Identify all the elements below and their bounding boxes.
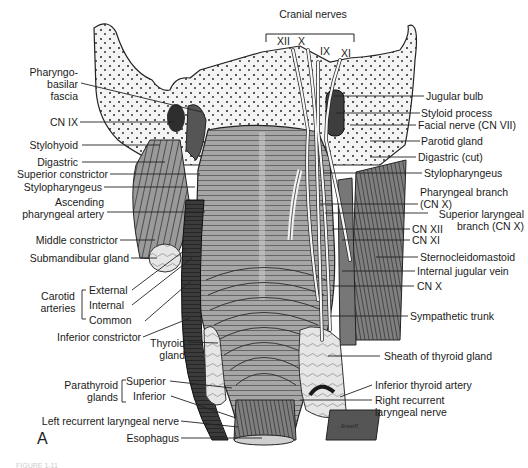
label-cn-x: CN X: [417, 280, 442, 292]
figure-caption-fragment: FIGURE 1-11: [16, 462, 58, 468]
label-carotid-internal: Internal: [89, 299, 124, 311]
label-sympathetic-trunk: Sympathetic trunk: [410, 310, 494, 322]
label-jugular-bulb: Jugular bulb: [426, 90, 483, 102]
illustrator-signature: Jewell: [340, 422, 358, 430]
label-thyroid-sheath: Sheath of thyroid gland: [384, 350, 492, 362]
label-right-recurrent-laryngeal-nerve: Right recurrent laryngeal nerve: [375, 394, 447, 418]
label-submandibular-gland: Submandibular gland: [4, 252, 129, 264]
panel-letter: A: [37, 430, 48, 448]
label-digastric-cut: Digastric (cut): [418, 151, 483, 163]
cranial-nerve-x: X: [298, 35, 305, 47]
label-stylopharyngeus-right: Stylopharyngeus: [424, 167, 502, 179]
label-digastric: Digastric: [10, 156, 78, 168]
label-ascending-pharyngeal-artery: Ascending pharyngeal artery: [4, 196, 104, 220]
label-sternocleidomastoid: Sternocleidomastoid: [420, 251, 515, 263]
label-pharyngeal-branch: Pharyngeal branch (CN X): [420, 186, 508, 210]
label-inferior-constrictor: Inferior constrictor: [4, 331, 141, 343]
cranial-nerves-title: Cranial nerves: [278, 8, 348, 20]
label-carotid-common: Common: [89, 314, 132, 326]
label-cn-ix: CN IX: [10, 116, 78, 128]
label-inferior-thyroid-artery: Inferior thyroid artery: [375, 379, 472, 391]
label-parathyroid-inferior: Inferior: [133, 390, 166, 402]
anatomy-figure: Jewell Cranial nerves XII X IX XI Pharyn…: [0, 0, 528, 468]
cranial-nerve-xi: XI: [341, 47, 351, 59]
label-middle-constrictor: Middle constrictor: [4, 234, 118, 246]
label-carotid-external: External: [89, 284, 128, 296]
label-cn-xi: CN XI: [412, 234, 440, 246]
label-parathyroid-superior: Superior: [126, 375, 166, 387]
cranial-nerve-ix: IX: [320, 45, 330, 57]
label-carotid-arteries: Carotid arteries: [36, 290, 80, 314]
label-stylohyoid: Stylohyoid: [10, 139, 78, 151]
label-parotid-gland: Parotid gland: [421, 135, 483, 147]
label-facial-nerve: Facial nerve (CN VII): [418, 119, 516, 131]
label-parathyroid-glands: Parathyroid glands: [50, 379, 118, 403]
label-pharyngobasilar-fascia: Pharyngo- basilar fascia: [10, 66, 78, 102]
cranial-nerve-xii: XII: [277, 35, 290, 47]
label-esophagus: Esophagus: [100, 432, 179, 444]
label-styloid-process: Styloid process: [421, 107, 492, 119]
label-thyroid-gland: Thyroid gland: [140, 337, 185, 361]
label-superior-constrictor: Superior constrictor: [4, 168, 108, 180]
label-stylopharyngeus-left: Stylopharyngeus: [4, 181, 102, 193]
label-left-recurrent-laryngeal-nerve: Left recurrent laryngeal nerve: [4, 415, 179, 427]
label-internal-jugular-vein: Internal jugular vein: [417, 265, 509, 277]
